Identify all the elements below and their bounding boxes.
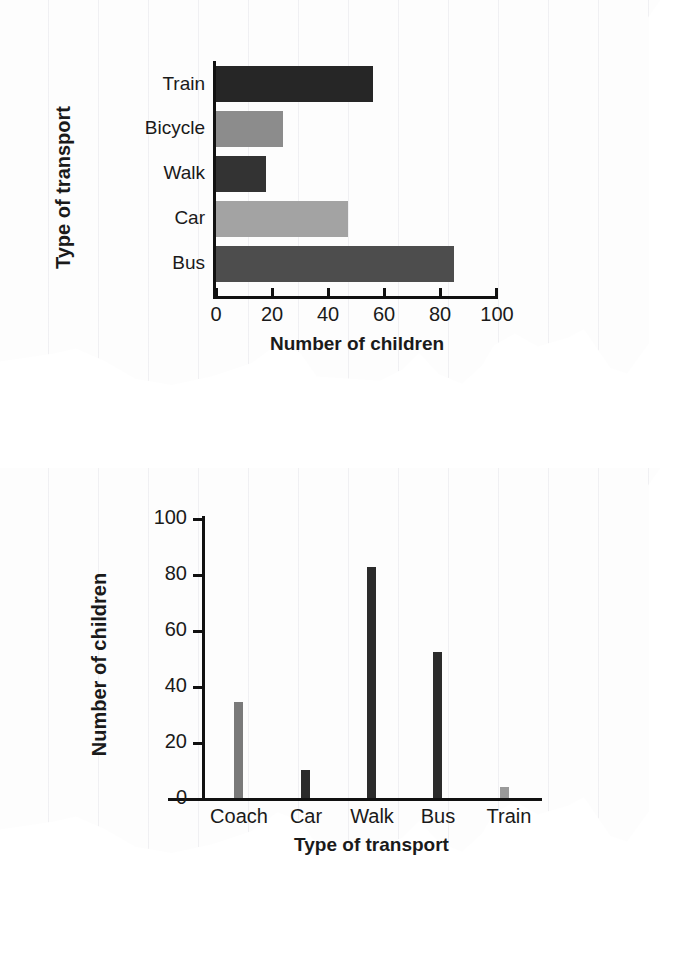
chart2-y-tick-label-0: 0 xyxy=(135,786,187,809)
chart1-bar-bicycle xyxy=(216,111,283,147)
chart1-x-tick-label-40: 40 xyxy=(312,303,344,326)
chart2-y-tick-label-20: 20 xyxy=(135,730,187,753)
chart1-category-label-walk: Walk xyxy=(0,162,205,184)
chart1-bar-train xyxy=(216,66,373,102)
chart1-x-tick-label-80: 80 xyxy=(424,303,456,326)
chart2-y-tick-100 xyxy=(193,518,203,521)
chart2-y-tick-label-80: 80 xyxy=(135,562,187,585)
chart2-x-axis-line xyxy=(168,798,542,801)
chart1-category-label-car: Car xyxy=(0,207,205,229)
chart1-x-tick-100 xyxy=(495,288,498,297)
chart2-bar-walk xyxy=(367,567,376,798)
chart1-category-label-bicycle: Bicycle xyxy=(0,117,205,139)
chart1-x-tick-label-100: 100 xyxy=(478,303,516,326)
chart1-x-tick-80 xyxy=(439,288,442,297)
chart2-y-tick-0 xyxy=(193,798,203,801)
chart1-x-tick-20 xyxy=(271,288,274,297)
chart2-y-tick-20 xyxy=(193,742,203,745)
chart1-x-axis-line xyxy=(213,296,498,299)
chart1-bar-bus xyxy=(216,246,454,282)
chart-vertical-bar: Number of children 100 80 60 40 20 0 Coa… xyxy=(0,468,660,868)
page-root: Type of transport Train Bicycle Walk Car… xyxy=(0,0,700,971)
chart2-y-tick-80 xyxy=(193,574,203,577)
chart2-x-axis-title: Type of transport xyxy=(203,834,540,856)
chart-horizontal-bar: Type of transport Train Bicycle Walk Car… xyxy=(0,0,660,380)
chart2-category-label-train: Train xyxy=(462,805,556,828)
chart2-bar-coach xyxy=(234,702,243,798)
chart1-x-tick-40 xyxy=(327,288,330,297)
chart1-category-label-bus: Bus xyxy=(0,252,205,274)
chart2-y-axis-line xyxy=(202,516,205,801)
chart1-x-tick-0 xyxy=(215,288,218,297)
chart2-y-axis-title: Number of children xyxy=(88,545,111,785)
chart1-x-tick-label-60: 60 xyxy=(368,303,400,326)
chart1-bar-car xyxy=(216,201,348,237)
chart2-y-tick-label-40: 40 xyxy=(135,674,187,697)
chart2-y-tick-label-60: 60 xyxy=(135,618,187,641)
chart1-x-tick-60 xyxy=(383,288,386,297)
chart2-bar-train xyxy=(500,787,509,798)
chart1-x-axis-title: Number of children xyxy=(216,333,498,355)
chart2-bar-car xyxy=(301,770,310,798)
chart2-y-tick-label-100: 100 xyxy=(135,506,187,529)
chart1-x-tick-label-20: 20 xyxy=(256,303,288,326)
chart1-x-tick-label-0: 0 xyxy=(200,303,232,326)
chart2-bar-bus xyxy=(433,652,442,798)
chart1-category-label-train: Train xyxy=(0,73,205,95)
chart2-y-tick-60 xyxy=(193,630,203,633)
chart1-y-axis-title: Type of transport xyxy=(52,63,75,313)
chart2-y-tick-40 xyxy=(193,686,203,689)
chart1-bar-walk xyxy=(216,156,266,192)
